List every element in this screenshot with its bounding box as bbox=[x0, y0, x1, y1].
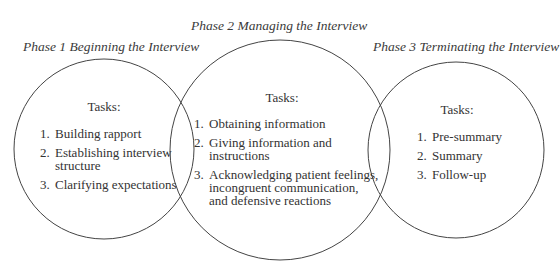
task-number: 2. bbox=[194, 136, 204, 149]
task-text: Clarifying expectations bbox=[55, 178, 177, 191]
task-text: Acknowledging patient feelings, incongru… bbox=[209, 168, 378, 208]
phase-2-task-list: 1. Obtaining information 2. Giving infor… bbox=[194, 117, 378, 213]
task-item: 3. Follow-up bbox=[417, 168, 502, 181]
task-number: 3. bbox=[194, 168, 204, 181]
task-number: 1. bbox=[417, 130, 427, 143]
task-text: Follow-up bbox=[432, 168, 502, 181]
phase-3-title: Phase 3 Terminating the Interview bbox=[373, 40, 559, 54]
task-item: 3. Acknowledging patient feelings, incon… bbox=[194, 168, 378, 208]
task-item: 3. Clarifying expectations bbox=[40, 178, 177, 191]
phase-1-tasks-heading: Tasks: bbox=[87, 100, 120, 113]
task-number: 3. bbox=[40, 178, 50, 191]
phase-3-tasks-heading: Tasks: bbox=[440, 103, 473, 116]
task-number: 3. bbox=[417, 168, 427, 181]
phase-2-tasks-heading: Tasks: bbox=[265, 91, 298, 104]
task-item: 1. Obtaining information bbox=[194, 117, 378, 130]
task-text: Summary bbox=[432, 149, 502, 162]
task-item: 2. Giving information and instructions bbox=[194, 136, 378, 163]
task-item: 2. Establishing interview structure bbox=[40, 146, 177, 173]
task-number: 2. bbox=[40, 146, 50, 159]
task-item: 1. Pre-summary bbox=[417, 130, 502, 143]
task-number: 1. bbox=[40, 127, 50, 140]
phase-3-task-list: 1. Pre-summary 2. Summary 3. Follow-up bbox=[417, 130, 502, 186]
interview-phases-diagram: Phase 1 Beginning the Interview Phase 2 … bbox=[0, 0, 560, 272]
task-text: Giving information and instructions bbox=[209, 136, 378, 163]
phase-2-title: Phase 2 Managing the Interview bbox=[191, 19, 367, 33]
task-text: Building rapport bbox=[55, 127, 177, 140]
task-text: Pre-summary bbox=[432, 130, 502, 143]
task-item: 1. Building rapport bbox=[40, 127, 177, 140]
task-number: 1. bbox=[194, 117, 204, 130]
task-text: Establishing interview structure bbox=[55, 146, 177, 173]
task-number: 2. bbox=[417, 149, 427, 162]
phase-1-title: Phase 1 Beginning the Interview bbox=[23, 40, 199, 54]
task-text: Obtaining information bbox=[209, 117, 378, 130]
phase-1-task-list: 1. Building rapport 2. Establishing inte… bbox=[40, 127, 177, 197]
task-item: 2. Summary bbox=[417, 149, 502, 162]
